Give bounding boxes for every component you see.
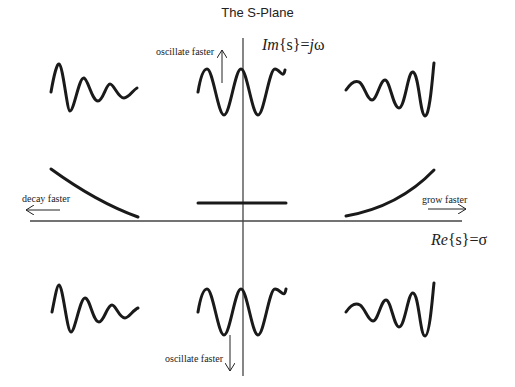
wave-growing-upper-right — [346, 63, 434, 116]
wave-growing-lower-right — [346, 283, 434, 336]
wave-decaying-lower-left — [52, 285, 138, 332]
annotation-left: decay faster — [22, 193, 71, 204]
annotation-right: grow faster — [422, 194, 468, 205]
annotation-bottom: oscillate faster — [165, 353, 224, 364]
wave-decaying-upper-left — [51, 64, 137, 111]
annotation-top: oscillate faster — [156, 46, 215, 57]
real-axis-label: Re{s}=σ — [430, 231, 487, 248]
s-plane-diagram: Im{s}=jω Re{s}=σ oscillate faster oscill… — [0, 0, 515, 387]
curve-exponential-growth — [346, 170, 434, 216]
wave-sustained-lower-center — [198, 289, 286, 335]
imaginary-axis-label: Im{s}=jω — [261, 36, 324, 54]
wave-sustained-upper-center — [198, 69, 285, 115]
